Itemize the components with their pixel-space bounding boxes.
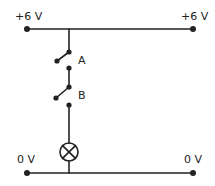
label-switch-a: A (78, 55, 86, 66)
terminal-bottom-left (24, 170, 30, 176)
label-switch-b: B (78, 90, 86, 101)
switch-a-pivot (66, 49, 71, 54)
switch-a-contact (66, 65, 71, 70)
label-bottom-right: 0 V (184, 154, 202, 165)
terminal-top-right (190, 26, 196, 32)
terminal-top-left (24, 26, 30, 32)
switch-b-end (53, 95, 58, 100)
circuit-diagram: +6 V +6 V A B 0 V 0 V (0, 0, 215, 186)
label-top-right: +6 V (181, 11, 208, 22)
label-top-left: +6 V (15, 11, 42, 22)
switch-b-contact (66, 102, 71, 107)
label-bottom-left: 0 V (17, 154, 35, 165)
terminal-bottom-right (190, 170, 196, 176)
switch-a-end (54, 58, 59, 63)
switch-b-pivot (66, 84, 71, 89)
